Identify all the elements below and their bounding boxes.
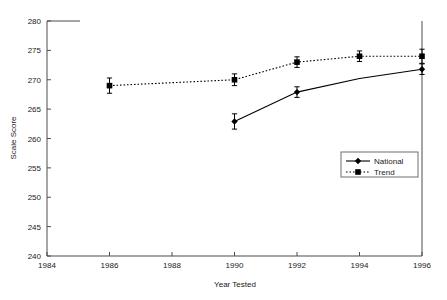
- chart-legend[interactable]: NationalTrend: [341, 152, 418, 177]
- y-tick-label: 250: [28, 193, 42, 202]
- chart-canvas: 240245250255260265270275280 198419861988…: [0, 0, 447, 300]
- y-tick-label: 260: [28, 135, 42, 144]
- legend-label-trend[interactable]: Trend: [374, 168, 395, 177]
- y-tick-label: 280: [28, 17, 42, 26]
- x-tick-label: 1984: [38, 261, 56, 270]
- data-point-marker: [419, 53, 425, 59]
- x-axis-title: Year Tested: [214, 280, 256, 289]
- y-tick-label: 270: [28, 76, 42, 85]
- y-tick-label: 255: [28, 164, 42, 173]
- legend-label-national[interactable]: National: [374, 157, 404, 166]
- x-tick-label: 1996: [413, 261, 431, 270]
- y-axis-title: Scale Score: [9, 116, 18, 160]
- y-tick-label: 265: [28, 105, 42, 114]
- data-point-marker: [294, 59, 300, 65]
- data-point-marker: [232, 77, 238, 83]
- x-tick-label: 1986: [101, 261, 119, 270]
- legend-marker-trend: [355, 169, 361, 175]
- y-tick-label: 245: [28, 223, 42, 232]
- y-tick-label: 240: [28, 252, 42, 261]
- chart-background: [0, 0, 447, 300]
- x-tick-label: 1988: [163, 261, 181, 270]
- data-point-marker: [107, 83, 113, 89]
- x-tick-label: 1990: [226, 261, 244, 270]
- x-tick-label: 1992: [288, 261, 306, 270]
- x-tick-label: 1994: [351, 261, 369, 270]
- y-tick-label: 275: [28, 46, 42, 55]
- scale-score-line-chart: 240245250255260265270275280 198419861988…: [0, 0, 447, 300]
- data-point-marker: [357, 53, 363, 59]
